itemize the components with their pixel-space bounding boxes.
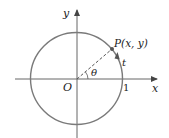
arc-length-label: t xyxy=(122,57,127,68)
theta-label: θ xyxy=(91,67,97,78)
y-axis-label: y xyxy=(62,7,70,20)
origin-label: O xyxy=(63,81,72,94)
x-axis-label: x xyxy=(152,82,159,95)
unit-circle-diagram: y x O 1 θ t P(x, y) xyxy=(0,0,169,138)
theta-arc xyxy=(85,72,88,79)
point-label: P(x, y) xyxy=(113,37,148,49)
one-label: 1 xyxy=(123,82,129,93)
